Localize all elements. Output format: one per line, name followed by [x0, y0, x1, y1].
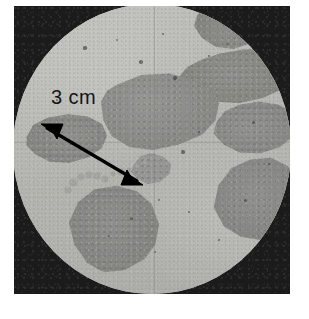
- circular-field-of-view: 3 cm: [14, 6, 290, 294]
- reticle-vertical-line: [154, 6, 155, 294]
- film-grain-texture: [14, 6, 290, 294]
- image-frame: 3 cm: [14, 6, 290, 294]
- reticle-horizontal-line: [14, 142, 290, 143]
- micrograph-figure: 3 cm: [0, 0, 309, 319]
